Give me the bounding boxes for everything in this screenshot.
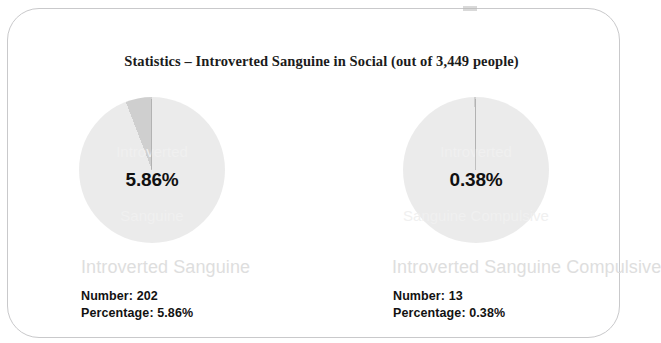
- legend-label-introverted-sanguine-compulsive: Introverted Sanguine Compulsive: [392, 257, 661, 278]
- slice-edge-line: [151, 99, 152, 170]
- stat-details-introverted-sanguine-compulsive: Number: 13 Percentage: 0.38%: [393, 288, 661, 321]
- pie-percentage-label: 0.38%: [403, 97, 549, 243]
- detail-number: Number: 202: [81, 288, 250, 305]
- clipped-glyph: [463, 6, 477, 11]
- stat-panel-introverted-sanguine: Introverted Sanguine 5.86% Introverted S…: [79, 97, 250, 321]
- detail-percentage: Percentage: 0.38%: [393, 305, 661, 322]
- legend-label-introverted-sanguine: Introverted Sanguine: [81, 257, 250, 278]
- pie-percentage-label: 5.86%: [79, 97, 225, 243]
- pie-chart-introverted-sanguine[interactable]: Introverted Sanguine 5.86%: [79, 97, 225, 243]
- pie-chart-introverted-sanguine-compulsive[interactable]: Introverted Sanguine Compulsive 0.38%: [403, 97, 549, 243]
- detail-percentage: Percentage: 5.86%: [81, 305, 250, 322]
- stat-panel-introverted-sanguine-compulsive: Introverted Sanguine Compulsive 0.38% In…: [392, 97, 661, 321]
- page-title: Statistics – Introverted Sanguine in Soc…: [8, 53, 635, 70]
- statistics-card: Statistics – Introverted Sanguine in Soc…: [7, 8, 620, 338]
- detail-number: Number: 13: [393, 288, 661, 305]
- stat-details-introverted-sanguine: Number: 202 Percentage: 5.86%: [81, 288, 250, 321]
- slice-edge-line: [475, 99, 476, 170]
